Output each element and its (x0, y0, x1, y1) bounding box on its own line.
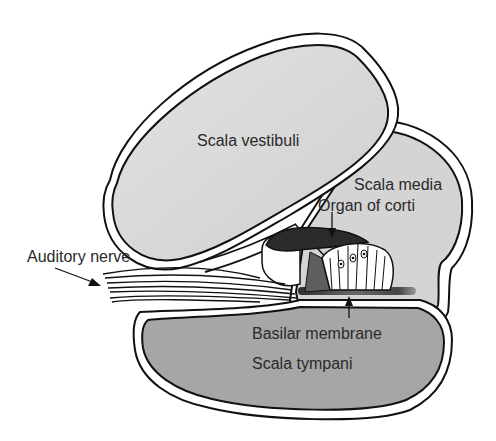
label-scala-vestibuli: Scala vestibuli (197, 132, 299, 149)
cochlea-diagram: Scala vestibuli Scala media Organ of cor… (0, 0, 496, 441)
label-scala-tympani: Scala tympani (252, 355, 353, 372)
label-auditory-nerve: Auditory nerve (27, 248, 130, 265)
label-basilar-membrane: Basilar membrane (252, 325, 382, 342)
label-organ-of-corti: Organ of corti (318, 197, 415, 214)
auditory-nerve-arrow (55, 268, 101, 286)
label-scala-media: Scala media (354, 176, 442, 193)
